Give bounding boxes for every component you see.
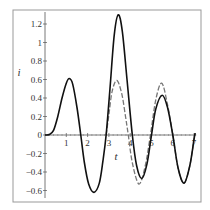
x-tick-label: 2 <box>85 138 90 148</box>
line-chart: 1234567−0.6−0.4−0.200.20.40.60.811.2 t i <box>0 0 210 210</box>
y-tick-label: 1 <box>38 38 43 48</box>
y-tick-label: 1.2 <box>31 19 42 29</box>
y-tick-label: −0.2 <box>26 149 42 159</box>
y-tick-label: −0.4 <box>26 167 43 177</box>
y-tick-label: −0.6 <box>26 186 43 196</box>
x-tick-label: 1 <box>64 138 69 148</box>
x-tick-label: 3 <box>107 138 112 148</box>
y-axis-label: i <box>17 66 20 78</box>
y-tick-label: 0.8 <box>31 56 43 66</box>
y-tick-label: 0 <box>38 130 43 140</box>
y-tick-label: 0.2 <box>31 112 42 122</box>
y-tick-label: 0.6 <box>31 75 43 85</box>
y-tick-label: 0.4 <box>31 93 43 103</box>
